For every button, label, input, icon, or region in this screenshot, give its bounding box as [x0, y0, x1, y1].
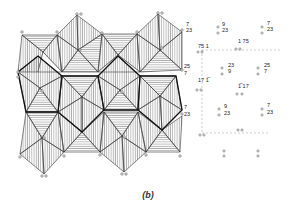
octahedron — [20, 112, 64, 174]
height-label: 25 — [184, 64, 190, 70]
height-label: 9 — [224, 104, 227, 110]
height-label: 7 — [184, 71, 187, 77]
height-label: 7 — [184, 105, 187, 111]
height-label: 23 — [186, 28, 192, 34]
octahedra-layer — [18, 14, 182, 174]
octahedron — [100, 112, 146, 172]
crystal-structure-figure: 72392372375 11 7525723925717 1̅1̅ 177239… — [0, 0, 296, 212]
height-label: 1̅ 17 — [238, 84, 249, 90]
height-label: 23 — [184, 112, 190, 118]
octahedron — [57, 15, 102, 72]
height-label: 17 1̅ — [198, 78, 209, 84]
polyhedra-diagram — [0, 0, 296, 212]
height-label: 75 1 — [198, 44, 209, 50]
height-label: 9 — [228, 69, 231, 75]
height-label: 1 75 — [238, 39, 249, 45]
height-label: 23 — [267, 27, 273, 33]
figure-caption: (b) — [0, 190, 296, 200]
height-label: 7 — [264, 69, 267, 75]
height-label: 23 — [222, 28, 228, 34]
height-label: 23 — [224, 111, 230, 117]
height-label: 7 — [267, 103, 270, 109]
octahedron — [137, 14, 182, 72]
height-label: 23 — [267, 110, 273, 116]
